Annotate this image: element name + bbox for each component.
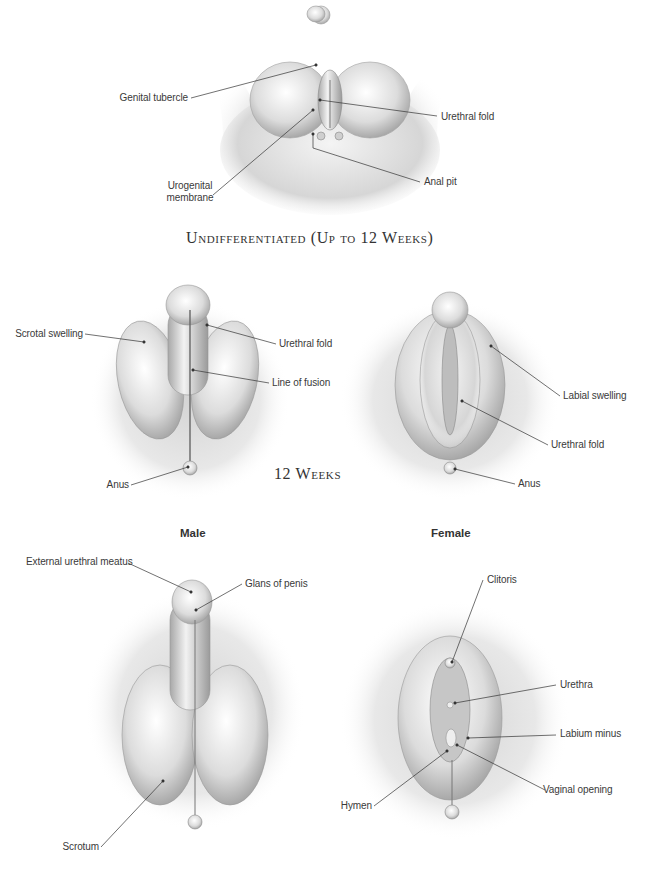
label-external-urethral-meatus: External urethral meatus [26,556,133,568]
label-clitoris: Clitoris [487,574,517,586]
section-title-undifferentiated: Undifferentiated (Up to 12 Weeks) [186,229,433,247]
anatomy-diagram [0,0,656,876]
label-scrotum: Scrotum [50,841,99,853]
label-urogenital-membrane-line2: membrane [160,192,220,204]
twelve-weeks-male-illustration [90,285,290,500]
label-urethra: Urethra [560,679,593,691]
label-labium-minus: Labium minus [560,728,621,740]
fully-developed-female-illustration [340,600,570,840]
twelve-weeks-female-illustration [340,292,560,500]
label-urogenital-membrane-line1: Urogenital [160,180,220,192]
label-labial-swelling: Labial swelling [563,390,627,402]
section-title-twelve-weeks: 12 Weeks [274,465,341,483]
heading-male: Male [180,527,206,539]
label-vaginal-opening: Vaginal opening [543,784,613,796]
label-genital-tubercle: Genital tubercle [92,92,188,104]
label-hymen: Hymen [330,800,372,812]
label-urethral-fold-male: Urethral fold [279,338,332,350]
label-urethral-fold-undiff: Urethral fold [441,111,494,123]
label-anus-female: Anus [518,478,540,490]
label-line-of-fusion: Line of fusion [272,377,330,389]
label-anal-pit: Anal pit [424,176,457,188]
undifferentiated-illustration [205,6,455,215]
label-anus-male: Anus [90,479,129,491]
label-glans-of-penis: Glans of penis [245,578,308,590]
label-urethral-fold-female: Urethral fold [551,439,604,451]
fully-developed-male-illustration [85,580,305,830]
heading-female: Female [431,527,471,539]
label-scrotal-swelling: Scrotal swelling [0,328,83,340]
